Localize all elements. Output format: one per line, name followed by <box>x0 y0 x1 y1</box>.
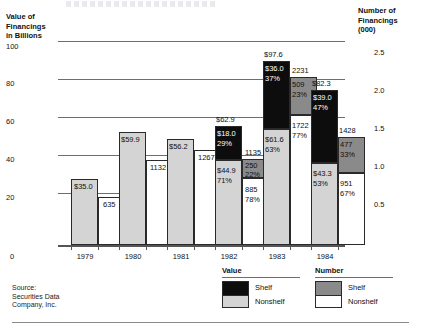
bottom-rule <box>12 322 409 323</box>
value-bar-1980[interactable] <box>119 132 146 245</box>
number-bar-1984-nonshelf-label: 951 <box>340 179 353 188</box>
value-bar-1984-total-label: $82.3 <box>312 79 331 88</box>
legend-value-rule <box>222 277 300 278</box>
value-bar-1983-shelf-label: $36.0 <box>265 64 284 73</box>
x-axis-line <box>58 245 345 247</box>
legend-number-title: Number <box>315 266 393 277</box>
y-tick-right-1-0: 1.0 <box>374 162 404 171</box>
number-bar-1983-nonshelf-pct-label: 77% <box>292 131 307 140</box>
number-bar-1984-nonshelf-pct-label: 67% <box>340 189 355 198</box>
number-bar-1983-total-label: 2231 <box>292 66 309 75</box>
x-tick-1979-mid <box>98 245 99 250</box>
number-bar-1982-total-label: 1135 <box>245 148 261 157</box>
x-tick-1982-start <box>215 245 216 250</box>
x-label-1981: 1981 <box>161 252 201 261</box>
y-tick-left-100: 100 <box>6 42 36 51</box>
number-bar-1981-total-label: 1267 <box>198 153 215 162</box>
cropped-title-fragment <box>66 1 216 7</box>
value-bar-1983-total-label: $97.6 <box>264 50 283 59</box>
value-bar-1982-nonshelf-pct-label: 71% <box>217 176 232 185</box>
legend-group-value: Value Shelf Nonshelf <box>222 266 300 308</box>
value-bar-1984-shelf-label: $39.0 <box>313 93 332 102</box>
y-tick-right-2-5: 2.5 <box>374 48 404 57</box>
y-tick-left-80: 80 <box>6 79 36 88</box>
legend-value-shelf-swatch <box>223 282 248 295</box>
value-bar-1982-shelf-pct-label: 29% <box>217 139 232 148</box>
value-bar-1983-nonshelf-label: $61.6 <box>265 135 284 144</box>
value-bar-1984[interactable] <box>311 90 338 245</box>
right-axis-title-line-1: Number of <box>358 6 420 16</box>
x-tick-1984-start <box>311 245 312 250</box>
number-bar-1984-shelf-label: 477 <box>340 140 353 149</box>
legend-number-labels: Shelf Nonshelf <box>348 281 378 308</box>
x-tick-1983-start <box>263 245 264 250</box>
source-line-1: Source: <box>12 284 59 293</box>
x-tick-1980-mid <box>146 245 147 250</box>
number-bar-1979-total-label: 635 <box>103 200 116 209</box>
left-axis-title: Value of Financings in Billions <box>6 12 86 41</box>
y-tick-right-0-5: 0.5 <box>374 200 404 209</box>
value-bar-1982-nonshelf-label: $44.9 <box>217 166 236 175</box>
y-tick-left-60: 60 <box>6 117 36 126</box>
x-tick-1981-mid <box>194 245 195 250</box>
number-bar-1982-shelf-label: 250 <box>245 161 258 170</box>
left-axis-title-line-2: Financings <box>6 22 86 32</box>
x-label-1980: 1980 <box>113 252 153 261</box>
source-line-2: Securities Data <box>12 293 59 302</box>
value-bar-1981-total-label: $56.2 <box>169 142 188 151</box>
value-bar-1982-total-label: $62.9 <box>216 115 235 124</box>
value-bar-1982-shelf-label: $18.0 <box>217 129 236 138</box>
value-bar-1980-total-label: $59.9 <box>121 135 140 144</box>
number-bar-1983-shelf-pct-label: 23% <box>292 90 307 99</box>
number-bar-1982-shelf-pct-label: 22% <box>245 170 260 179</box>
value-bar-1983-shelf-pct-label: 37% <box>265 74 280 83</box>
legend-number-nonshelf-swatch <box>316 295 341 308</box>
value-bar-1981[interactable] <box>167 139 194 245</box>
legend-group-number: Number Shelf Nonshelf <box>315 266 393 308</box>
x-tick-1980-start <box>119 245 120 250</box>
right-axis-title: Number of Financings (000) <box>358 6 420 35</box>
x-tick-1984-mid <box>338 245 339 250</box>
legend-value-nonshelf-label: Nonshelf <box>255 295 285 309</box>
number-bar-1982-nonshelf-label: 885 <box>245 185 258 194</box>
y-tick-left-0: 0 <box>10 252 40 261</box>
number-bar-1983-nonshelf-label: 1722 <box>292 121 309 130</box>
y-tick-right-2-0: 2.0 <box>374 86 404 95</box>
value-bar-1979-total-label: $35.0 <box>74 182 93 191</box>
legend-value-shelf-label: Shelf <box>255 281 285 295</box>
x-label-1982: 1982 <box>209 252 249 261</box>
chart-plot-area: $35.0 635 $59.9 1132 $56.2 1267 $62.9 $1… <box>58 38 345 245</box>
chart-legend: Value Shelf Nonshelf Number Shelf Nonshe… <box>222 266 402 316</box>
right-axis-title-line-2: Financings <box>358 16 420 26</box>
value-bar-1980-nonshelf <box>119 132 146 245</box>
number-bar-1984-total-label: 1428 <box>339 126 356 135</box>
legend-number-shelf-label: Shelf <box>348 281 378 295</box>
x-label-1983: 1983 <box>257 252 297 261</box>
number-bar-1980-total-label: 1132 <box>150 163 166 172</box>
legend-number-swatches <box>315 281 342 308</box>
number-bar-1984-shelf-pct-label: 33% <box>340 150 355 159</box>
x-label-1984: 1984 <box>305 252 345 261</box>
value-bar-1984-nonshelf-label: $43.3 <box>313 169 332 178</box>
x-tick-1983-mid <box>290 245 291 250</box>
legend-number-rule <box>315 277 393 278</box>
right-axis-title-line-3: (000) <box>358 25 420 35</box>
source-note: Source: Securities Data Company, Inc. <box>12 284 59 310</box>
legend-number-shelf-swatch <box>316 282 341 295</box>
y-tick-left-40: 40 <box>6 155 36 164</box>
x-tick-1981-start <box>167 245 168 250</box>
value-bar-1984-nonshelf-pct-label: 53% <box>313 179 328 188</box>
legend-value-title: Value <box>222 266 300 277</box>
source-line-3: Company, Inc. <box>12 301 59 310</box>
y-tick-right-1-5: 1.5 <box>374 124 404 133</box>
x-tick-1982-mid <box>242 245 243 250</box>
legend-number-nonshelf-label: Nonshelf <box>348 295 378 309</box>
legend-value-labels: Shelf Nonshelf <box>255 281 285 308</box>
y-tick-left-20: 20 <box>6 193 36 202</box>
left-axis-title-line-1: Value of <box>6 12 86 22</box>
number-bar-1983-shelf-label: 509 <box>292 80 305 89</box>
legend-value-swatches <box>222 281 249 308</box>
value-bar-1983-nonshelf-pct-label: 63% <box>265 145 280 154</box>
value-bar-1984-shelf-pct-label: 47% <box>313 103 328 112</box>
x-tick-1979-start <box>71 245 72 250</box>
